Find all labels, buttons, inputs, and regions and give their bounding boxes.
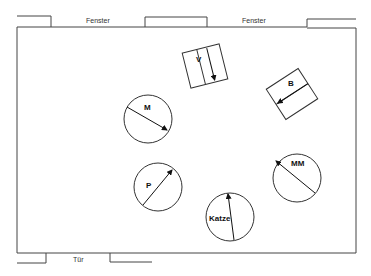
seat-label-m: M <box>144 104 151 112</box>
floor-plan-canvas <box>0 0 371 276</box>
door-jamb-right <box>110 253 152 262</box>
furniture-label-v: V <box>196 56 201 64</box>
room-walls <box>17 27 356 253</box>
seat-p[interactable] <box>134 163 182 211</box>
window-label-left: Fenster <box>86 17 110 24</box>
window-ledge-right <box>307 19 356 27</box>
furniture-v[interactable] <box>182 44 228 88</box>
furniture-label-b: B <box>288 80 294 88</box>
seat-label-p: P <box>146 182 151 190</box>
door-jamb-left <box>17 253 46 263</box>
window-ledge-left <box>17 16 51 27</box>
seat-label-katze: Katze <box>209 215 230 223</box>
window-label-right: Fenster <box>242 17 266 24</box>
window-ledge-middle <box>145 17 207 27</box>
furniture-b[interactable] <box>266 69 317 120</box>
seat-label-mm: MM <box>291 160 304 168</box>
door-label: Tür <box>73 256 84 263</box>
